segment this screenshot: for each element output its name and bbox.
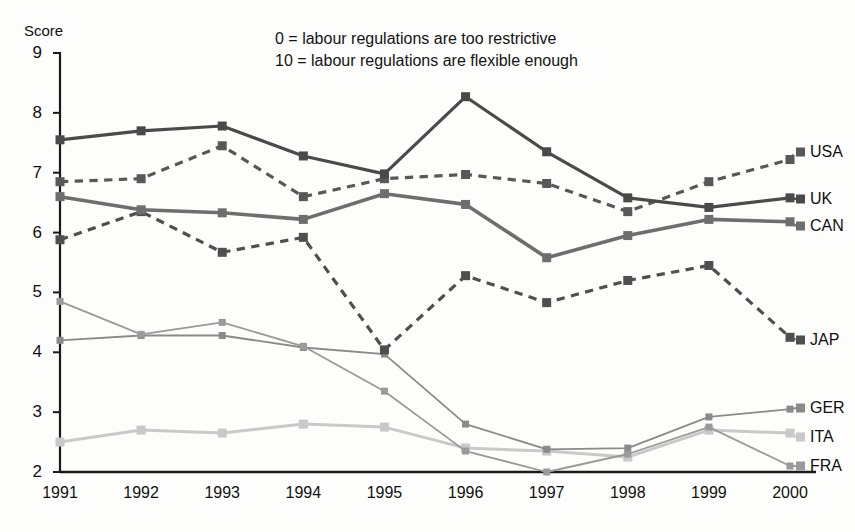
marker-can-1992 — [137, 205, 146, 214]
marker-uk-1994 — [299, 151, 308, 160]
marker-uk-1995 — [380, 169, 389, 178]
marker-fra-1999 — [705, 424, 712, 431]
series-label-fra: FRA — [810, 457, 842, 475]
legend-chip-uk — [796, 195, 805, 204]
legend-chip-fra — [796, 462, 805, 471]
marker-uk-1997 — [542, 147, 551, 156]
series-line-ita — [60, 424, 790, 457]
legend-chip-can — [796, 222, 805, 231]
marker-fra-1993 — [219, 319, 226, 326]
marker-fra-1991 — [57, 298, 64, 305]
marker-uk-1991 — [56, 135, 65, 144]
marker-jap-2000 — [786, 333, 795, 342]
marker-uk-2000 — [786, 193, 795, 202]
marker-fra-2000 — [787, 463, 794, 470]
marker-can-1993 — [218, 208, 227, 217]
marker-ita-1994 — [299, 420, 308, 429]
marker-uk-1993 — [218, 122, 227, 131]
marker-uk-1999 — [704, 203, 713, 212]
plot-area — [0, 0, 855, 532]
marker-jap-1994 — [299, 233, 308, 242]
marker-usa-1991 — [56, 177, 65, 186]
marker-usa-1993 — [218, 141, 227, 150]
marker-usa-2000 — [786, 155, 795, 164]
marker-can-2000 — [786, 217, 795, 226]
marker-ger-1998 — [624, 445, 631, 452]
marker-fra-1994 — [300, 343, 307, 350]
marker-ger-1997 — [543, 446, 550, 453]
series-line-jap — [60, 212, 790, 350]
marker-jap-1999 — [704, 261, 713, 270]
marker-jap-1991 — [56, 235, 65, 244]
marker-usa-1994 — [299, 192, 308, 201]
marker-usa-1996 — [461, 170, 470, 179]
legend-chip-ger — [796, 404, 805, 413]
marker-can-1999 — [704, 215, 713, 224]
marker-usa-1998 — [623, 207, 632, 216]
marker-jap-1997 — [542, 298, 551, 307]
marker-jap-1996 — [461, 271, 470, 280]
marker-uk-1992 — [137, 126, 146, 135]
marker-ita-1993 — [218, 429, 227, 438]
marker-jap-1995 — [380, 345, 389, 354]
marker-can-1991 — [56, 192, 65, 201]
legend-chip-usa — [796, 148, 805, 157]
marker-usa-1999 — [704, 177, 713, 186]
series-label-usa: USA — [810, 143, 843, 161]
chart-root: Score 0 = labour regulations are too res… — [0, 0, 855, 532]
marker-ita-1995 — [380, 423, 389, 432]
series-line-usa — [60, 146, 790, 212]
marker-can-1998 — [623, 231, 632, 240]
marker-fra-1992 — [138, 331, 145, 338]
series-label-can: CAN — [810, 217, 844, 235]
marker-can-1997 — [542, 253, 551, 262]
marker-usa-1992 — [137, 174, 146, 183]
marker-ita-1991 — [56, 438, 65, 447]
marker-ita-2000 — [786, 429, 795, 438]
marker-can-1996 — [461, 200, 470, 209]
legend-chip-ita — [796, 433, 805, 442]
series-line-fra — [60, 301, 790, 472]
marker-usa-1997 — [542, 179, 551, 188]
marker-jap-1998 — [623, 276, 632, 285]
marker-ger-1996 — [462, 421, 469, 428]
marker-can-1994 — [299, 215, 308, 224]
series-label-ita: ITA — [810, 428, 834, 446]
marker-uk-1998 — [623, 193, 632, 202]
marker-jap-1993 — [218, 248, 227, 257]
marker-ger-1993 — [219, 332, 226, 339]
series-label-jap: JAP — [810, 331, 839, 349]
marker-ger-2000 — [787, 406, 794, 413]
marker-fra-1995 — [381, 388, 388, 395]
marker-can-1995 — [380, 189, 389, 198]
marker-fra-1998 — [624, 451, 631, 458]
series-label-uk: UK — [810, 190, 832, 208]
marker-uk-1996 — [461, 92, 470, 101]
marker-fra-1997 — [543, 469, 550, 476]
marker-fra-1996 — [462, 448, 469, 455]
marker-ger-1999 — [705, 413, 712, 420]
marker-ita-1992 — [137, 426, 146, 435]
marker-ger-1991 — [57, 337, 64, 344]
series-label-ger: GER — [810, 399, 845, 417]
legend-chip-jap — [796, 336, 805, 345]
